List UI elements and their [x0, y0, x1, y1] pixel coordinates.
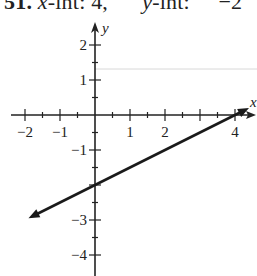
x-tick-label: 1	[126, 124, 134, 140]
x-tick-label: 4	[231, 124, 239, 140]
y-axis-label: y	[100, 20, 109, 36]
y-tick-label: −4	[71, 247, 87, 263]
x-axis-label: x	[249, 94, 257, 110]
y-tick-label: −1	[71, 142, 87, 158]
y-tick-label: 1	[80, 72, 88, 88]
y-tick-label: 2	[80, 37, 88, 53]
x-tick-label: −1	[52, 124, 68, 140]
graph: −2−112421−1−3−4xy	[0, 0, 257, 276]
x-tick-label: 2	[161, 124, 169, 140]
y-tick-label: −3	[71, 212, 87, 228]
x-tick-label: −2	[17, 124, 33, 140]
